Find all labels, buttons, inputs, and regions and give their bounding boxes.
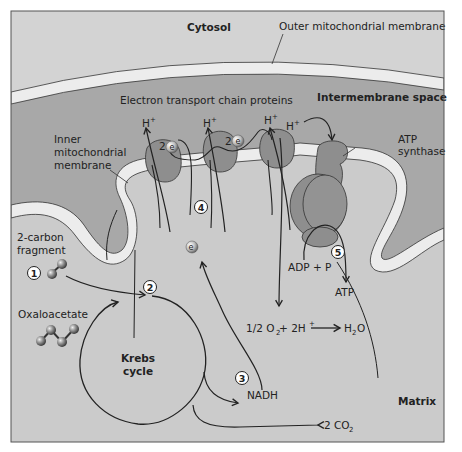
step-5-badge: 5 bbox=[332, 246, 345, 259]
svg-text:4: 4 bbox=[198, 202, 205, 213]
svg-text:+: + bbox=[150, 116, 156, 124]
svg-text:H: H bbox=[344, 322, 352, 334]
inner-membrane-label-line3: membrane bbox=[54, 159, 111, 171]
step-3-badge: 3 bbox=[236, 372, 249, 385]
electron-ball-2: e bbox=[232, 135, 244, 147]
svg-text:+: + bbox=[294, 119, 300, 127]
svg-text:2: 2 bbox=[349, 426, 353, 434]
svg-text:2: 2 bbox=[147, 282, 154, 293]
svg-text:e: e bbox=[236, 137, 241, 146]
svg-text:e: e bbox=[170, 143, 175, 152]
matrix-label: Matrix bbox=[398, 395, 436, 407]
mitochondrion-diagram: e e e 1 2 3 4 5 Cytosol Outer mitochondr… bbox=[0, 0, 462, 452]
svg-text:+: + bbox=[211, 116, 217, 124]
electron-ball-3: e bbox=[186, 241, 198, 253]
nadh-label: NADH bbox=[247, 389, 278, 401]
step-4-badge: 4 bbox=[195, 201, 208, 214]
step-1-badge: 1 bbox=[28, 267, 41, 280]
svg-text:1/2 O: 1/2 O bbox=[246, 322, 275, 334]
svg-text:O: O bbox=[357, 322, 365, 334]
etc-proteins-label: Electron transport chain proteins bbox=[120, 94, 293, 106]
svg-text:+: + bbox=[309, 320, 315, 328]
electron-ball-1: e bbox=[166, 141, 178, 153]
svg-text:1: 1 bbox=[31, 268, 38, 279]
etc-protein-3 bbox=[260, 129, 295, 168]
inner-membrane-label-line1: Inner bbox=[54, 133, 82, 145]
cytosol-label: Cytosol bbox=[187, 21, 231, 33]
inner-membrane-label-line2: mitochondrial bbox=[54, 146, 126, 158]
svg-text:+: + bbox=[272, 113, 278, 121]
oxaloacetate-label: Oxaloacetate bbox=[18, 308, 88, 320]
two-electrons-label-2: 2 bbox=[225, 135, 232, 147]
svg-text:2: 2 bbox=[352, 329, 356, 337]
svg-text:5: 5 bbox=[335, 247, 342, 258]
svg-text:H: H bbox=[264, 114, 272, 126]
two-electrons-label-1: 2 bbox=[159, 140, 166, 152]
krebs-cycle-label-line2: cycle bbox=[123, 365, 153, 377]
svg-text:e: e bbox=[189, 243, 194, 252]
atp-synthase-label-line1: ATP bbox=[398, 133, 417, 145]
intermembrane-space-label: Intermembrane space bbox=[317, 91, 447, 103]
two-carbon-label-line1: 2-carbon bbox=[17, 231, 64, 243]
atp-synthase-label-line2: synthase bbox=[398, 145, 445, 157]
step-2-badge: 2 bbox=[144, 281, 157, 294]
svg-text:H: H bbox=[203, 117, 211, 129]
svg-text:+ 2H: + 2H bbox=[279, 322, 306, 334]
adp-label: ADP + P bbox=[288, 261, 331, 273]
outer-membrane-label: Outer mitochondrial membrane bbox=[279, 20, 445, 32]
two-carbon-label-line2: fragment bbox=[17, 244, 66, 256]
svg-text:H: H bbox=[142, 117, 150, 129]
svg-text:H: H bbox=[286, 120, 294, 132]
krebs-cycle-label-line1: Krebs bbox=[121, 352, 155, 364]
svg-text:2 CO: 2 CO bbox=[324, 419, 350, 431]
atp-label: ATP bbox=[335, 286, 354, 298]
svg-text:3: 3 bbox=[239, 373, 246, 384]
